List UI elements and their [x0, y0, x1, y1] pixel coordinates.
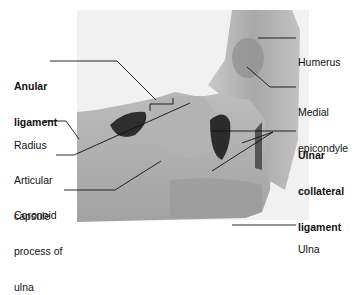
epicondyle-shape — [232, 38, 264, 78]
label-coronoid-process: Coronoid process of ulna — [14, 185, 62, 295]
label-ulna: Ulna — [298, 219, 320, 279]
